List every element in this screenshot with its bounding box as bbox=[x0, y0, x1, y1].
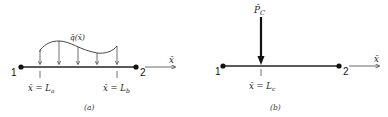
node-1-label: 1 bbox=[11, 67, 17, 78]
node-2-dot bbox=[133, 64, 138, 69]
lb-label: x̄ = Lb bbox=[103, 83, 130, 94]
node-1-dot bbox=[18, 64, 23, 69]
x-axis-label: x̄ bbox=[374, 54, 379, 64]
figure-b-point-load: 1 2 x̄ P̄C x̄ = Lc (b) bbox=[215, 4, 379, 112]
node-2-dot bbox=[336, 63, 341, 68]
beam-load-diagrams: 1 2 x̄ q̄(x̄) x̄ = La x̄ = Lb (a) 1 2 x̄… bbox=[0, 0, 388, 117]
figure-a-distributed-load: 1 2 x̄ q̄(x̄) x̄ = La x̄ = Lb (a) bbox=[11, 33, 175, 112]
distributed-load-curve bbox=[40, 41, 117, 53]
node-2-label: 2 bbox=[343, 66, 349, 77]
caption-b: (b) bbox=[270, 103, 281, 112]
lc-label: x̄ = Lc bbox=[249, 81, 276, 92]
load-label: q̄(x̄) bbox=[70, 33, 85, 42]
caption-a: (a) bbox=[84, 103, 94, 112]
node-2-label: 2 bbox=[140, 67, 146, 78]
node-1-label: 1 bbox=[215, 66, 221, 77]
la-label: x̄ = La bbox=[28, 83, 55, 94]
x-axis-label: x̄ bbox=[169, 55, 174, 65]
node-1-dot bbox=[220, 63, 225, 68]
force-label: P̄C bbox=[253, 4, 265, 17]
point-force-arrowhead bbox=[258, 56, 265, 65]
